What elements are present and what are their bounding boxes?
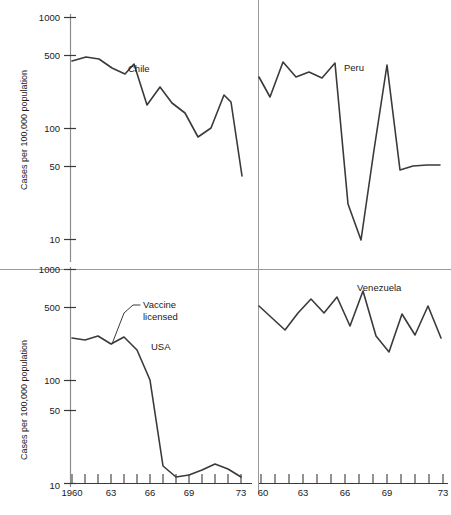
usa-xticklabel-69: 69 — [184, 487, 195, 498]
chile-yticklabel-10: 10 — [49, 234, 60, 245]
usa-yticklabel-1000: 1000 — [39, 264, 60, 275]
panel-dividers — [0, 0, 451, 494]
usa-yticklabel-10: 10 — [49, 480, 60, 491]
venezuela-series-label: Venezuela — [357, 282, 402, 293]
usa-yticklabel-500: 500 — [44, 302, 60, 313]
chile-yticklabel-1000: 1000 — [39, 12, 60, 23]
chile-series-line — [72, 57, 242, 176]
usa-xticklabel-63: 63 — [106, 487, 117, 498]
panel-peru: Peru — [259, 62, 440, 240]
usa-x-ticks — [72, 474, 241, 483]
measles-incidence-small-multiples-figure: 1000 500 100 50 10 Cases per 100,000 pop… — [0, 0, 451, 515]
chile-series-label: Chile — [128, 63, 150, 74]
vaccine-licensed-annotation-line1: Vaccine — [143, 299, 176, 310]
chile-yticklabel-50: 50 — [49, 161, 60, 172]
venezuela-xticklabel-63: 63 — [298, 487, 309, 498]
venezuela-xticklabel-69: 69 — [382, 487, 393, 498]
chile-y-axis-label: Cases per 100,000 population — [19, 70, 29, 190]
usa-y-axis-label: Cases per 100,000 population — [19, 340, 29, 460]
venezuela-xticklabel-66: 66 — [340, 487, 351, 498]
usa-yticklabel-100: 100 — [44, 375, 60, 386]
chart-canvas: 1000 500 100 50 10 Cases per 100,000 pop… — [0, 0, 451, 515]
peru-series-label-line — [259, 62, 440, 240]
panel-chile: 1000 500 100 50 10 Cases per 100,000 pop… — [19, 12, 242, 262]
peru-series-label: Peru — [344, 62, 364, 73]
usa-xticklabel-66: 66 — [145, 487, 156, 498]
panel-venezuela: 60 63 66 69 73 Venezuela — [258, 282, 449, 498]
usa-yticklabel-50: 50 — [49, 405, 60, 416]
chile-yticklabel-500: 500 — [44, 50, 60, 61]
usa-xticklabel-1960: 1960 — [61, 487, 82, 498]
venezuela-x-ticks — [261, 474, 443, 483]
venezuela-series-line — [259, 291, 441, 352]
venezuela-xticklabel-73: 73 — [438, 487, 449, 498]
usa-series-label: USA — [151, 341, 171, 352]
usa-xticklabel-73: 73 — [236, 487, 247, 498]
usa-series-line — [72, 336, 241, 477]
panel-usa: 1000 500 100 50 10 Cases per 100,000 pop… — [19, 264, 252, 498]
vaccine-licensed-annotation-line2: licensed — [143, 311, 178, 322]
venezuela-xticklabel-60: 60 — [258, 487, 269, 498]
chile-yticklabel-100: 100 — [44, 123, 60, 134]
